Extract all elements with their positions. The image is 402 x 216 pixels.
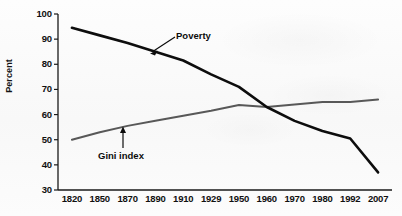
annotation-label-gini-index: Gini index: [98, 150, 144, 161]
gini-annotation-arrow: [120, 127, 126, 149]
chart-figure: Percent 30405060708090100 18201850187018…: [0, 0, 402, 216]
annotation-label-poverty: Poverty: [176, 30, 211, 41]
